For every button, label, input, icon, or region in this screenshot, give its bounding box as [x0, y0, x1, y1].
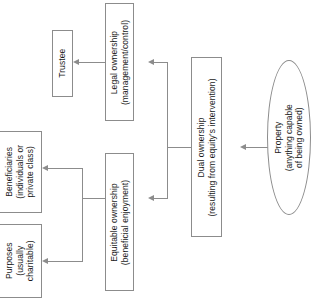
node-trustee-label: Trustee	[57, 49, 68, 78]
node-dual-ownership-line2: (resulting from equity's intervention)	[207, 78, 217, 216]
edge-equitable-outgoing-stub	[82, 198, 105, 199]
node-trustee[interactable]: Trustee	[52, 30, 73, 97]
arrowhead-equitable-to-purposes	[42, 258, 48, 264]
node-equitable-ownership-line1: Equitable ownership	[109, 183, 119, 261]
node-property-line3: of being owned)	[294, 107, 304, 168]
edge-dual-to-legal	[154, 62, 168, 63]
node-property-line2: (anything capable	[284, 104, 294, 171]
node-equitable-ownership-label: Equitable ownership (beneficial enjoymen…	[109, 179, 130, 264]
node-beneficiaries-label: Beneficiaries (individuals or private cl…	[4, 145, 36, 199]
node-purposes-line2: (usually	[14, 246, 24, 276]
edge-dual-to-equitable	[154, 198, 168, 199]
node-legal-ownership-line2: (management/control)	[120, 19, 130, 104]
node-equitable-ownership[interactable]: Equitable ownership (beneficial enjoymen…	[105, 153, 134, 291]
edge-property-to-dual	[246, 147, 268, 148]
node-purposes-label: Purposes (usually charitable)	[4, 241, 36, 282]
edge-equitable-split-vertical	[82, 168, 83, 261]
node-property-label: Property (anything capable of being owne…	[273, 104, 305, 171]
edge-equitable-to-purposes	[48, 261, 83, 262]
node-beneficiaries-line2: (individuals or	[14, 145, 24, 199]
arrowhead-legal-to-trustee	[73, 59, 79, 65]
node-dual-ownership-line1: Dual ownership	[196, 117, 206, 177]
node-legal-ownership-label: Legal ownership (management/control)	[109, 19, 130, 104]
node-dual-ownership[interactable]: Dual ownership (resulting from equity's …	[191, 57, 222, 237]
node-trustee-line1: Trustee	[57, 49, 67, 78]
edge-dual-outgoing-stub	[167, 147, 191, 148]
node-legal-ownership[interactable]: Legal ownership (management/control)	[105, 3, 134, 121]
arrowhead-dual-to-equitable	[148, 195, 154, 201]
node-beneficiaries-line3: private class)	[25, 146, 35, 197]
edge-dual-split-vertical	[167, 62, 168, 198]
node-property[interactable]: Property (anything capable of being owne…	[267, 60, 311, 215]
node-equitable-ownership-line2: (beneficial enjoyment)	[120, 179, 130, 264]
arrowhead-dual-to-legal	[148, 59, 154, 65]
node-purposes-line1: Purposes	[4, 243, 14, 280]
edge-equitable-to-beneficiaries	[48, 168, 83, 169]
arrowhead-property-to-dual	[240, 144, 246, 150]
node-purposes-line3: charitable)	[25, 241, 35, 282]
node-property-line1: Property	[273, 121, 283, 153]
diagram-canvas: Property (anything capable of being owne…	[0, 0, 323, 301]
node-beneficiaries-line1: Beneficiaries	[4, 147, 14, 197]
node-legal-ownership-line1: Legal ownership	[109, 30, 119, 93]
node-dual-ownership-label: Dual ownership (resulting from equity's …	[196, 78, 217, 216]
node-purposes[interactable]: Purposes (usually charitable)	[0, 224, 42, 298]
arrowhead-equitable-to-beneficiaries	[42, 165, 48, 171]
node-beneficiaries[interactable]: Beneficiaries (individuals or private cl…	[0, 131, 42, 213]
edge-legal-to-trustee	[79, 62, 105, 63]
